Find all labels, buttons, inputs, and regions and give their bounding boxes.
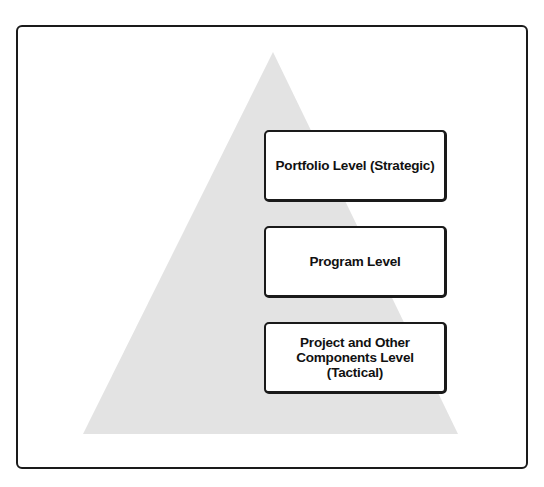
program-level-box: Program Level bbox=[264, 226, 447, 298]
program-level-label: Program Level bbox=[309, 254, 400, 269]
portfolio-level-label: Portfolio Level (Strategic) bbox=[276, 158, 435, 173]
portfolio-level-box: Portfolio Level (Strategic) bbox=[264, 130, 447, 202]
project-level-box: Project and Other Components Level (Tact… bbox=[264, 322, 447, 394]
project-level-label: Project and Other Components Level (Tact… bbox=[296, 335, 414, 380]
